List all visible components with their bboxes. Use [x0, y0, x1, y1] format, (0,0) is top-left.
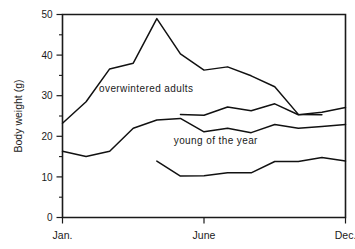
x-axis-ticks: Jan.JuneDec.: [53, 218, 355, 241]
annotation-label: young of the year: [174, 135, 258, 146]
y-axis-ticks: 01020304050: [41, 9, 62, 223]
y-tick-label: 40: [41, 50, 53, 61]
body-weight-line-chart: Body weight (g) 01020304050 Jan.JuneDec.…: [0, 0, 355, 249]
series-line-young-of-the-year-low: [157, 157, 346, 176]
y-axis-title-label: Body weight (g): [12, 80, 24, 153]
annotation-label: overwintered adults: [99, 83, 193, 94]
y-tick-label: 50: [41, 9, 53, 20]
plot-border: [63, 15, 346, 218]
y-tick-label: 30: [41, 90, 53, 101]
series-lines: [63, 19, 346, 177]
y-tick-label: 10: [41, 172, 53, 183]
x-tick-label: June: [193, 229, 216, 241]
x-tick-label: Jan.: [53, 229, 73, 241]
chart-figure: Body weight (g) 01020304050 Jan.JuneDec.…: [0, 0, 355, 249]
y-axis-title: Body weight (g): [12, 80, 24, 153]
chart-annotations: overwintered adultsyoung of the year: [99, 83, 258, 146]
y-tick-label: 0: [47, 212, 53, 223]
x-tick-label: Dec.: [335, 229, 355, 241]
y-tick-label: 20: [41, 131, 53, 142]
plot-frame: [63, 15, 346, 218]
series-line-overwintered-adults-late: [180, 104, 345, 115]
